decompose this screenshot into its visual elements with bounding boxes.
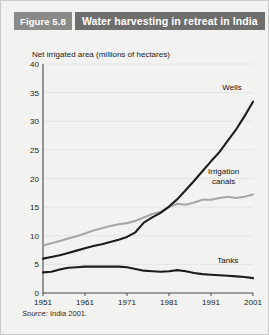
y-tick-label: 15 [30, 203, 39, 212]
series-line-tanks [43, 267, 253, 278]
y-tick-label: 35 [30, 89, 39, 98]
x-tick-label: 1981 [160, 298, 178, 307]
wells-label: Wells [222, 83, 241, 92]
tanks-label: Tanks [217, 256, 238, 265]
x-tick-label: 2001 [244, 298, 262, 307]
y-tick-label: 40 [30, 60, 39, 69]
x-tick-label: 1961 [76, 298, 94, 307]
x-tick-label: 1991 [202, 298, 220, 307]
x-tick-label: 1971 [118, 298, 136, 307]
chart-plot-area: 0510152025303540 19511961197119811991200… [1, 1, 269, 335]
source-note: Source: India 2001. [22, 309, 87, 318]
canals-label-line2: canals [212, 177, 235, 186]
x-axis-tick-labels: 195119611971198119912001 [34, 298, 262, 307]
canals-label-line1: Irrigation [208, 167, 239, 176]
x-tick-label: 1951 [34, 298, 52, 307]
series-annotations: WellsIrrigationcanalsTanks [208, 83, 242, 265]
gridlines [43, 64, 253, 264]
y-axis-tick-labels: 0510152025303540 [30, 60, 39, 298]
line-chart: 0510152025303540 19511961197119811991200… [1, 1, 269, 335]
source-prefix: Source: [22, 309, 48, 318]
y-tick-label: 0 [35, 289, 40, 298]
source-text: India 2001. [48, 309, 87, 318]
y-tick-label: 10 [30, 232, 39, 241]
y-tick-label: 5 [35, 260, 40, 269]
series-lines [43, 102, 253, 278]
y-tick-label: 25 [30, 146, 39, 155]
y-tick-label: 20 [30, 175, 39, 184]
y-tick-label: 30 [30, 117, 39, 126]
figure-panel: Figure 5.8 Water harvesting in retreat i… [0, 0, 269, 335]
